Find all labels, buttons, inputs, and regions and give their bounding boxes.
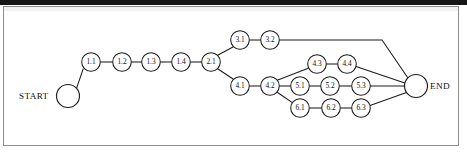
edge-start-to-1-1 (77, 69, 84, 89)
node-4-4[interactable]: 4.4 (338, 55, 357, 74)
node-5-1[interactable]: 5.1 (291, 77, 310, 96)
node-3-2[interactable]: 3.2 (261, 31, 280, 50)
start-terminal[interactable]: START (19, 85, 80, 108)
network-diagram: 1.11.21.31.42.13.13.24.14.24.34.45.15.25… (0, 0, 467, 154)
node-4-3[interactable]: 4.3 (308, 55, 327, 74)
node-2-1[interactable]: 2.1 (202, 53, 221, 72)
node-1-2[interactable]: 1.2 (113, 53, 132, 72)
node-label: 1.1 (86, 57, 96, 66)
node-label: 6.3 (356, 103, 366, 112)
node-6-1[interactable]: 6.1 (291, 99, 310, 118)
node-label: 5.3 (356, 81, 366, 90)
node-label: 4.1 (235, 81, 245, 90)
start-label: START (19, 91, 49, 101)
node-1-4[interactable]: 1.4 (172, 53, 191, 72)
node-label: 1.4 (176, 57, 186, 66)
end-node-circle (405, 75, 428, 98)
node-1-1[interactable]: 1.1 (82, 53, 101, 72)
node-label: 1.2 (117, 57, 127, 66)
node-5-2[interactable]: 5.2 (321, 77, 340, 96)
node-label: 5.1 (295, 81, 305, 90)
node-6-3[interactable]: 6.3 (352, 99, 371, 118)
node-label: 3.2 (265, 35, 275, 44)
node-label: 2.1 (206, 57, 216, 66)
node-5-3[interactable]: 5.3 (352, 77, 371, 96)
node-label: 4.4 (342, 59, 352, 68)
edge-layer (77, 40, 410, 108)
node-label: 1.3 (146, 57, 156, 66)
node-6-2[interactable]: 6.2 (322, 99, 341, 118)
edge-6-3-to-end (370, 93, 407, 106)
node-label: 3.1 (235, 35, 245, 44)
node-label: 6.1 (295, 103, 305, 112)
node-label: 5.2 (325, 81, 335, 90)
edge-2-1-to-3-1 (218, 47, 234, 55)
node-4-1[interactable]: 4.1 (231, 77, 250, 96)
end-label: END (430, 81, 450, 91)
node-label: 6.2 (326, 103, 336, 112)
node-3-1[interactable]: 3.1 (231, 31, 250, 50)
node-label: 4.3 (312, 59, 322, 68)
node-4-2[interactable]: 4.2 (261, 77, 280, 96)
node-1-3[interactable]: 1.3 (142, 53, 161, 72)
start-node-circle (57, 85, 80, 108)
figure-page: 1.11.21.31.42.13.13.24.14.24.34.45.15.25… (0, 0, 467, 154)
node-label: 4.2 (265, 81, 275, 90)
edge-2-1-to-4-1 (218, 69, 234, 79)
end-terminal[interactable]: END (405, 75, 450, 98)
edge-4-2-to-6-1 (277, 92, 292, 102)
